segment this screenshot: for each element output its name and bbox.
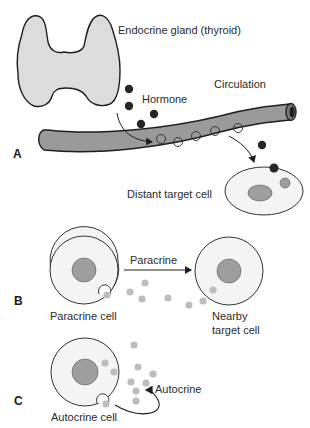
target-nucleus-b [217,259,241,283]
panel-b: Paracrine B Paracrine cell Nearby target… [14,227,263,336]
hormone-dots [125,85,158,128]
panel-a-letter: A [13,147,22,161]
paracrine-nucleus [72,258,96,282]
autocrine-arrow-label: Autocrine [155,383,201,395]
gland-label: Endocrine gland (thyroid) [118,24,241,36]
target-nucleus [248,185,272,201]
hormone-label: Hormone [142,93,187,105]
delivery-arrow [229,136,254,162]
paracrine-arrow-label: Paracrine [130,254,177,266]
nearby-label-line2: target cell [212,324,260,336]
thyroid-gland [17,15,120,106]
circulation-label: Circulation [214,78,266,90]
panel-c-letter: C [14,394,23,408]
autocrine-nucleus [72,359,98,385]
panel-a: Endocrine gland (thyroid) Hormone Circul… [13,15,303,215]
panel-b-letter: B [14,294,23,308]
free-hormone-dot [258,141,266,149]
bound-hormone-dot [270,164,279,173]
blood-vessel [39,104,290,152]
panel-c: Autocrine C Autocrine cell [14,338,201,423]
autocrine-cell-label: Autocrine cell [51,411,117,423]
distant-target-label: Distant target cell [127,188,212,200]
nearby-label-line1: Nearby [212,310,248,322]
cell-signaling-diagram: Endocrine gland (thyroid) Hormone Circul… [0,0,310,428]
receptor-bound [280,178,290,188]
paracrine-cell-label: Paracrine cell [50,310,117,322]
